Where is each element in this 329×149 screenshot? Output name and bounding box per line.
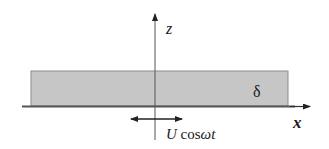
boundary-layer-region bbox=[31, 71, 288, 106]
diagram-canvas bbox=[0, 0, 329, 149]
plate-velocity-label: U cosωt bbox=[166, 127, 215, 142]
z-axis-label: z bbox=[166, 21, 172, 37]
velocity-symbol: U bbox=[166, 126, 177, 142]
layer-thickness-label: δ bbox=[253, 84, 261, 100]
velocity-function: cos bbox=[181, 126, 201, 142]
velocity-argument: ωt bbox=[201, 126, 216, 142]
x-axis-label: x bbox=[293, 114, 302, 131]
